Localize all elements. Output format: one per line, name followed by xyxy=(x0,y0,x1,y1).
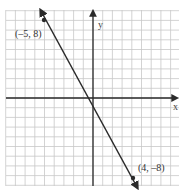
coordinate-plane: y x (–5, 8) (4, –8) xyxy=(0,0,179,196)
graph-line xyxy=(41,11,137,187)
point-marker-2 xyxy=(131,176,135,180)
y-axis-label: y xyxy=(98,19,103,30)
point-marker-1 xyxy=(42,18,46,22)
point-label-1: (–5, 8) xyxy=(15,28,42,40)
point-label-2: (4, –8) xyxy=(138,162,165,174)
x-axis-label: x xyxy=(173,101,178,112)
